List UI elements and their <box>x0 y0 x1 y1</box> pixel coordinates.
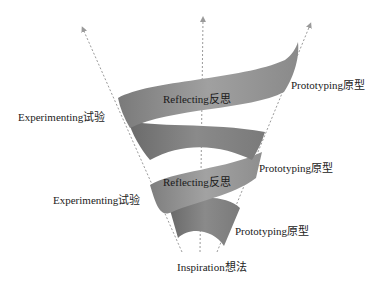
label-prototyping-bottom: Prototyping原型 <box>235 226 309 237</box>
spiral-band-middle-back <box>128 120 265 160</box>
label-reflecting-bottom: Reflecting反思 <box>163 177 231 188</box>
label-experimenting-bottom: Experimenting试验 <box>53 195 140 206</box>
label-prototyping-top: Prototyping原型 <box>291 80 365 91</box>
spiral-diagram <box>0 0 387 290</box>
label-prototyping-mid: Prototyping原型 <box>259 163 333 174</box>
label-inspiration: Inspiration想法 <box>177 262 247 273</box>
spiral-band-top-front <box>118 42 298 128</box>
label-reflecting-top: Reflecting反思 <box>163 94 231 105</box>
label-experimenting-top: Experimenting试验 <box>18 112 105 123</box>
